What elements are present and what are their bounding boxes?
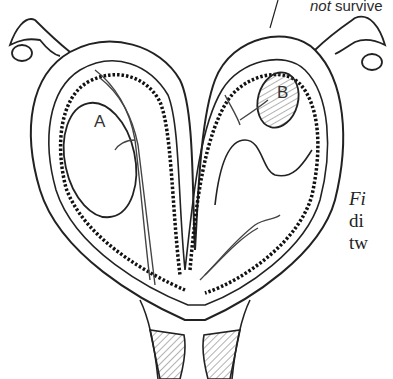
annotation-rest: survive xyxy=(331,0,383,14)
figure-caption-partial: Fi di tw xyxy=(349,188,368,254)
caption-line-3: tw xyxy=(349,232,368,254)
caption-line-1: Fi xyxy=(349,188,368,210)
uterus-illustration xyxy=(0,0,393,379)
endometrium-right xyxy=(190,75,318,293)
annotation-italic: not xyxy=(310,0,331,14)
caption-line-2: di xyxy=(349,210,368,232)
annotation-not-survive: not survive xyxy=(310,0,383,14)
pointer-line xyxy=(270,0,278,28)
label-embryo-a: A xyxy=(94,112,105,132)
fallopian-tubes xyxy=(10,17,385,70)
right-horn-membrane xyxy=(215,140,312,205)
uterus-diagram xyxy=(0,0,393,379)
label-embryo-b: B xyxy=(277,83,288,103)
